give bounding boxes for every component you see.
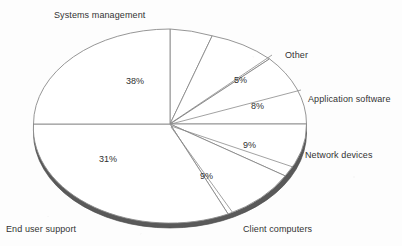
- pie-label-application-software: Application software: [308, 94, 391, 105]
- pie-value-end-user-support: 31%: [99, 154, 117, 164]
- pie-label-systems-management: Systems management: [54, 10, 145, 21]
- pie-value-client-computers: 9%: [200, 171, 213, 181]
- pie-chart: Systems management Other Application sof…: [0, 0, 402, 246]
- pie-label-network-devices: Network devices: [305, 150, 373, 161]
- pie-value-application-software: 8%: [251, 101, 264, 111]
- pie-label-other: Other: [285, 50, 308, 61]
- pie-label-client-computers: Client computers: [243, 224, 312, 235]
- pie-chart-graphic: [0, 0, 402, 246]
- pie-value-other: 5%: [234, 75, 247, 85]
- pie-value-network-devices: 9%: [243, 140, 256, 150]
- pie-slices: [33, 29, 306, 223]
- pie-value-systems-management: 38%: [126, 76, 144, 86]
- pie-slice-systems-management[interactable]: [34, 29, 171, 124]
- pie-label-end-user-support: End user support: [6, 224, 76, 235]
